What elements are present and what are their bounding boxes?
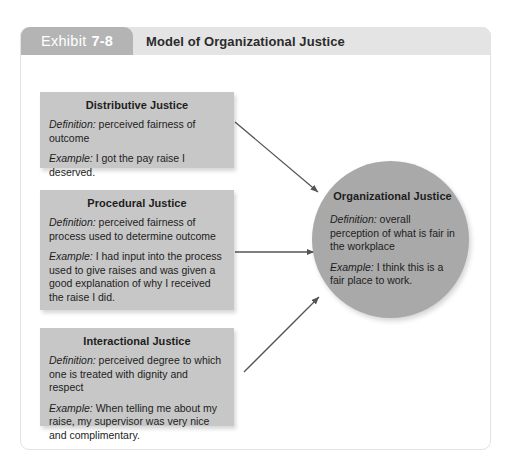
box-definition: Definition: perceived degree to which on… bbox=[49, 354, 225, 395]
box-definition: Definition: perceived fairness of outcom… bbox=[49, 118, 225, 145]
definition-label: Definition: bbox=[330, 213, 377, 225]
definition-label: Definition: bbox=[49, 118, 96, 130]
concept-box-distributive-justice: Distributive Justice Definition: perceiv… bbox=[40, 92, 234, 168]
box-title: Interactional Justice bbox=[49, 335, 225, 347]
concept-box-procedural-justice: Procedural Justice Definition: perceived… bbox=[40, 190, 234, 310]
exhibit-label-tab: Exhibit 7-8 bbox=[21, 27, 133, 55]
box-example: Example: I had input into the process us… bbox=[49, 250, 225, 304]
example-label: Example: bbox=[330, 261, 374, 273]
definition-label: Definition: bbox=[49, 216, 96, 228]
box-title: Distributive Justice bbox=[49, 99, 225, 111]
box-title: Procedural Justice bbox=[49, 197, 225, 209]
exhibit-word: Exhibit bbox=[41, 33, 87, 49]
exhibit-title: Model of Organizational Justice bbox=[146, 27, 345, 55]
box-example: Example: When telling me about my raise,… bbox=[49, 402, 225, 443]
circle-definition: Definition: overall perception of what i… bbox=[330, 213, 455, 254]
circle-example: Example: I think this is a fair place to… bbox=[330, 261, 455, 288]
example-label: Example: bbox=[49, 152, 93, 164]
example-label: Example: bbox=[49, 250, 93, 262]
circle-title: Organizational Justice bbox=[330, 190, 455, 202]
definition-label: Definition: bbox=[49, 354, 96, 366]
box-example: Example: I got the pay raise I deserved. bbox=[49, 152, 225, 179]
exhibit-figure: Exhibit 7-8 Model of Organizational Just… bbox=[0, 0, 513, 473]
outcome-circle-organizational-justice: Organizational Justice Definition: overa… bbox=[312, 161, 469, 318]
box-definition: Definition: perceived fairness of proces… bbox=[49, 216, 225, 243]
exhibit-number: 7-8 bbox=[92, 33, 114, 49]
example-label: Example: bbox=[49, 402, 93, 414]
concept-box-interactional-justice: Interactional Justice Definition: percei… bbox=[40, 328, 234, 426]
